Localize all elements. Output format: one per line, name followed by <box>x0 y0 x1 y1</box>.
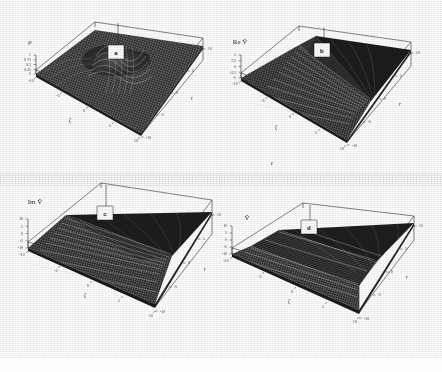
panel-b-xtick-4: 10 <box>340 147 344 151</box>
panel-b-ztick-0: 5 <box>234 53 236 57</box>
panel-c-ztick-4: -10 <box>18 246 23 250</box>
panel-c-ytick-3: -5 <box>174 285 177 289</box>
panel-c-y-axis-label: r <box>204 266 207 272</box>
panel-b-callout-letter: b <box>320 47 324 54</box>
panel-d-ytick-1: 5 <box>405 247 407 251</box>
panel-c: 10 5 0 -5 -10 Im V̂ -10 -5 0 5 10 ζ 10 5… <box>0 172 221 358</box>
panel-a-ztick-4: 0 <box>29 72 31 76</box>
panel-c-z-axis-label: Im V̂ <box>28 198 42 206</box>
panel-a-ztick-0: 1 <box>29 53 31 57</box>
panel-a-ztick-1: 0.75 <box>24 58 31 62</box>
panel-d: 10 5 0 -5 -10 V̂ -10 -5 0 5 10 ζ 10 5 0 … <box>221 172 442 358</box>
panel-b-x-axis-label: ζ <box>275 124 278 131</box>
panel-d-ztick-4: -10 <box>222 252 227 256</box>
panel-a-xtick-4: 10 <box>134 139 138 143</box>
panel-a-ytick-3: -5 <box>161 113 164 117</box>
panel-c-ztick-2: 0 <box>21 232 23 236</box>
panel-a-ytick-0: 10 <box>208 47 212 51</box>
panel-a-xtick-0: -10 <box>28 79 33 83</box>
panel-d-ztick-2: 0 <box>225 238 227 242</box>
panel-c-xtick-1: -5 <box>54 269 57 273</box>
panel-d-xtick-0: -10 <box>223 259 228 263</box>
panel-c-ztick-1: 5 <box>21 225 23 229</box>
panel-d-xtick-1: -5 <box>258 275 261 279</box>
panel-a-xtick-2: 0 <box>83 109 85 113</box>
panel-b-xtick-2: 0 <box>289 115 291 119</box>
panel-a-x-axis-label: ζ <box>69 117 72 124</box>
panel-d-surface <box>232 223 414 314</box>
panel-c-xtick-0: -10 <box>19 253 24 257</box>
panel-d-xtick-4: 10 <box>353 320 357 324</box>
panel-c-x-axis-label: ζ <box>84 292 87 299</box>
panel-b-z-axis-label: Re V̂ <box>233 38 247 46</box>
panel-b-ztick-3: -2.5 <box>230 71 236 75</box>
panel-b-y-axis-label: r <box>399 101 402 107</box>
panel-b-ztick-4: -5 <box>233 76 236 80</box>
panel-a-y-axis-label: r <box>191 95 194 101</box>
panel-c-surface <box>28 212 212 308</box>
panel-c-xtick-4: 10 <box>149 314 153 318</box>
panel-d-ytick-0: 10 <box>419 224 423 228</box>
panel-b-xtick-0: -10 <box>232 82 237 86</box>
panel-d-z-axis-label: V̂ <box>244 214 249 222</box>
panel-b-ytick-2: 0 <box>384 97 386 101</box>
panel-d-ytick-4: -10 <box>364 317 369 321</box>
panel-a-callout-letter: a <box>114 49 118 56</box>
panel-a-ytick-4: -10 <box>146 136 151 140</box>
panel-d-ztick-3: -5 <box>224 245 227 249</box>
panel-d-ytick-2: 0 <box>391 270 393 274</box>
panel-b-xtick-1: -5 <box>261 99 264 103</box>
panel-d-xtick-2: 0 <box>291 290 293 294</box>
panel-a: 1 0.75 0.5 0.25 0 ρ -10 -5 0 5 10 ζ 10 5… <box>0 0 221 186</box>
panel-c-callout: c <box>97 185 113 220</box>
panel-c-callout-letter: c <box>103 210 107 217</box>
stray-label-c: c <box>271 160 274 166</box>
panel-c-ztick-3: -5 <box>20 239 23 243</box>
panel-b-ztick-1: 2.5 <box>231 59 236 63</box>
panel-c-xtick-3: 5 <box>118 299 120 303</box>
panel-c-ztick-0: 10 <box>19 217 23 221</box>
panel-d-y-axis-label: r <box>406 274 409 280</box>
panel-b: 5 2.5 0 -2.5 -5 Re V̂ -10 -5 0 5 10 ζ 10… <box>221 0 442 186</box>
panel-a-z-axis: 1 0.75 0.5 0.25 0 ρ <box>24 38 36 76</box>
panel-a-xtick-1: -5 <box>56 94 59 98</box>
panel-d-ztick-1: 5 <box>225 231 227 235</box>
panel-a-z-axis-label: ρ <box>28 38 32 46</box>
panel-b-ytick-1: 5 <box>400 74 402 78</box>
panel-a-ytick-2: 0 <box>176 91 178 95</box>
panel-d-callout: d <box>301 205 317 234</box>
panel-d-ytick-3: -5 <box>378 293 381 297</box>
panel-d-xtick-3: 5 <box>322 305 324 309</box>
panel-c-xtick-2: 0 <box>87 284 89 288</box>
panel-b-z-axis: 5 2.5 0 -2.5 -5 Re V̂ <box>230 38 247 80</box>
panel-b-ytick-4: -10 <box>352 144 357 148</box>
panel-c-ytick-1: 5 <box>203 237 205 241</box>
panel-b-ytick-0: 10 <box>416 51 420 55</box>
panel-a-ytick-1: 5 <box>192 69 194 73</box>
panel-d-x-axis-label: ζ <box>288 298 291 305</box>
panel-c-ytick-4: -10 <box>160 310 165 314</box>
panel-b-ztick-2: 0 <box>234 65 236 69</box>
panel-d-ztick-0: 10 <box>223 224 227 228</box>
panel-d-callout-letter: d <box>307 224 311 231</box>
panel-c-ytick-2: 0 <box>188 261 190 265</box>
panel-a-ztick-2: 0.5 <box>26 63 31 67</box>
panel-a-xtick-3: 5 <box>109 124 111 128</box>
panel-b-xtick-3: 5 <box>315 131 317 135</box>
panel-a-ztick-3: 0.25 <box>24 68 31 72</box>
panel-b-ytick-3: -5 <box>368 120 371 124</box>
